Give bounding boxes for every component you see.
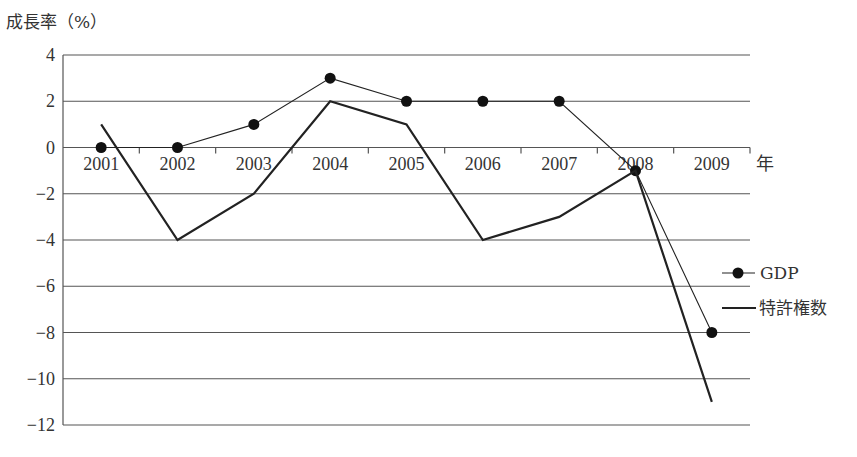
x-tick-label: 2006 xyxy=(465,154,501,174)
gdp-point xyxy=(96,142,107,153)
gdp-marker-icon xyxy=(733,268,744,279)
legend-item-patent: 特許権数 xyxy=(722,298,827,318)
y-tick-label: 4 xyxy=(46,45,55,65)
gdp-point xyxy=(706,327,717,338)
gdp-point xyxy=(401,96,412,107)
y-tick-label: −10 xyxy=(27,369,55,389)
x-tick-label: 2005 xyxy=(389,154,425,174)
y-axis-ticks: 420−2−4−6−8−10−12 xyxy=(27,45,55,435)
gdp-point xyxy=(477,96,488,107)
gdp-point xyxy=(325,73,336,84)
y-tick-label: −6 xyxy=(36,276,55,296)
y-tick-label: −12 xyxy=(27,415,55,435)
y-tick-label: −8 xyxy=(36,323,55,343)
x-tick-label: 2004 xyxy=(312,154,348,174)
legend-label-patent: 特許権数 xyxy=(759,298,827,318)
y-tick-label: −2 xyxy=(36,184,55,204)
y-tick-label: 2 xyxy=(46,91,55,111)
line-chart: 420−2−4−6−8−10−12 2001200220032004200520… xyxy=(0,0,857,457)
gdp-point xyxy=(248,119,259,130)
y-tick-label: −4 xyxy=(36,230,55,250)
x-axis-unit: 年 xyxy=(756,154,774,174)
y-tick-label: 0 xyxy=(46,138,55,158)
gdp-point xyxy=(554,96,565,107)
x-tick-label: 2009 xyxy=(694,154,730,174)
legend: GDP 特許権数 xyxy=(722,263,827,318)
x-tick-label: 2007 xyxy=(541,154,577,174)
x-tick-label: 2001 xyxy=(83,154,119,174)
gdp-line xyxy=(101,78,712,332)
patent-line xyxy=(101,101,712,402)
x-tick-label: 2002 xyxy=(160,154,196,174)
legend-label-gdp: GDP xyxy=(760,263,799,283)
gdp-point xyxy=(172,142,183,153)
legend-item-gdp: GDP xyxy=(722,263,799,283)
gridlines xyxy=(63,55,750,425)
x-tick-label: 2003 xyxy=(236,154,272,174)
data-series xyxy=(96,73,718,402)
